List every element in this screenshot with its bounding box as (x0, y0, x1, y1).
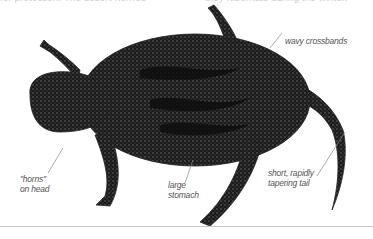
label-tail: short, rapidly tapering tail (268, 168, 314, 188)
leader-line-horns (48, 148, 63, 173)
label-horns: "horns" on head (20, 174, 49, 194)
label-tail-line1: short, rapidly (268, 168, 314, 178)
label-tail-line2: tapering tail (268, 178, 314, 188)
label-stomach-line2: stomach (168, 190, 199, 200)
label-wavy-crossbands: wavy crossbands (285, 36, 347, 46)
horizontal-rule (0, 226, 373, 227)
leader-line-wavy (270, 33, 282, 48)
label-stomach: large stomach (168, 180, 199, 200)
label-horns-line1: "horns" (20, 174, 49, 184)
label-horns-line2: on head (20, 184, 49, 194)
label-stomach-line1: large (168, 180, 199, 190)
